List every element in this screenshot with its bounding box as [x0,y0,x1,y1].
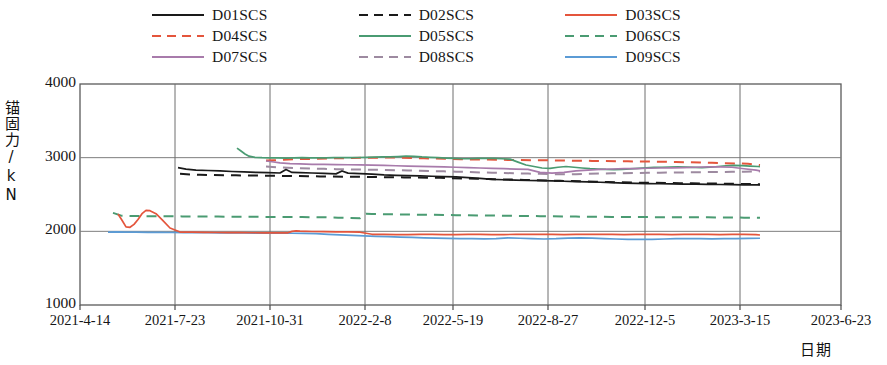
series-line-d05scs [237,148,760,170]
plot-area [0,0,887,365]
plot-frame [80,84,841,305]
series-line-d06scs [113,213,760,218]
anchor-force-time-series-chart: D01SCSD02SCSD03SCSD04SCSD05SCSD06SCSD07S… [0,0,887,365]
series-line-d02scs [180,174,760,184]
